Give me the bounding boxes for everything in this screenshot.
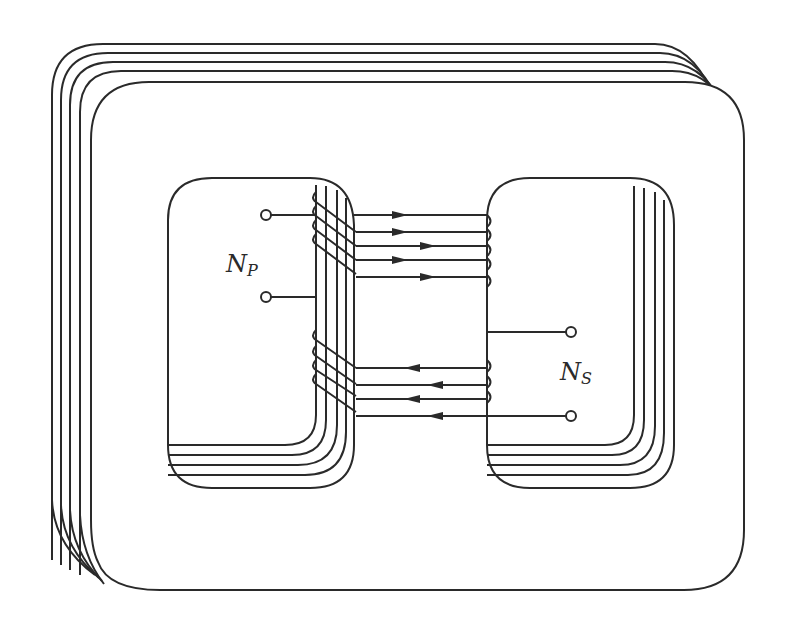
- secondary-label-sub: S: [581, 369, 592, 388]
- primary-label-sub: P: [247, 261, 258, 280]
- front-plate: [91, 82, 744, 590]
- secondary-terminal-top: [566, 327, 576, 337]
- primary-label-main: N: [226, 250, 247, 278]
- primary-terminal-top: [261, 210, 271, 220]
- transformer-diagram: [0, 0, 789, 626]
- core-laminations: [52, 44, 744, 590]
- primary-winding-label: NP: [226, 252, 258, 276]
- secondary-label-main: N: [560, 358, 581, 386]
- secondary-winding-label: NS: [560, 360, 592, 384]
- primary-terminal-bottom: [261, 292, 271, 302]
- secondary-terminal-bottom: [566, 411, 576, 421]
